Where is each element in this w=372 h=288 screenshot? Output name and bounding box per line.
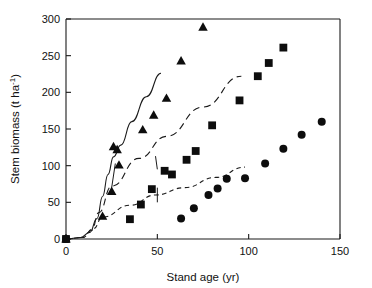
y-tick-label: 0 <box>54 233 60 245</box>
data-point-circle <box>190 204 198 212</box>
data-point-circle <box>204 191 212 199</box>
y-axis-title-group: Stem biomass (t ha-1) <box>8 74 21 184</box>
fit-notch-triangles <box>112 163 116 187</box>
x-axis-title: Stand age (yr) <box>167 271 240 283</box>
data-point-circle <box>318 118 326 126</box>
axis-ticks <box>66 19 340 239</box>
x-tick-label: 50 <box>151 245 163 257</box>
data-point-square <box>265 59 273 67</box>
data-point-square <box>192 147 200 155</box>
data-point-circle <box>241 174 249 182</box>
y-axis-title: Stem biomass (t ha-1) <box>8 74 21 184</box>
data-point-square <box>236 97 244 105</box>
axes <box>66 19 340 239</box>
data-point-triangle <box>198 22 208 30</box>
data-point-circle <box>62 235 70 243</box>
y-tick-label: 200 <box>42 86 60 98</box>
data-point-square <box>126 215 134 223</box>
x-tick-label: 100 <box>239 245 257 257</box>
x-tick-label: 150 <box>331 245 349 257</box>
y-tick-label: 300 <box>42 13 60 25</box>
data-point-square <box>208 121 216 129</box>
data-point-square <box>168 171 176 179</box>
data-point-triangle <box>162 93 172 101</box>
fit-notch-squares <box>156 156 158 169</box>
data-point-triangle <box>176 56 186 64</box>
x-tick-label: 0 <box>63 245 69 257</box>
stem-biomass-scatter-chart: 050100150200250300050100150 Stand age (y… <box>0 0 372 288</box>
data-point-circle <box>223 175 231 183</box>
y-tick-label: 250 <box>42 50 60 62</box>
data-point-circle <box>214 184 222 192</box>
y-axis-title-suffix: ) <box>9 74 21 78</box>
fit-lines <box>66 73 245 239</box>
y-tick-label: 150 <box>42 123 60 135</box>
data-point-circle <box>261 159 269 167</box>
fit-line-triangles <box>66 73 161 239</box>
data-point-square <box>183 156 191 164</box>
data-point-square <box>279 44 287 52</box>
figure-container: 050100150200250300050100150 Stand age (y… <box>0 0 372 288</box>
data-markers <box>61 22 325 243</box>
data-point-circle <box>279 145 287 153</box>
data-point-triangle <box>107 187 117 195</box>
data-point-circle <box>177 214 185 222</box>
data-point-triangle <box>149 110 159 118</box>
y-tick-label: 100 <box>42 160 60 172</box>
y-axis-title-main: Stem biomass (t ha <box>9 84 21 184</box>
fit-line-squares <box>66 76 241 239</box>
data-point-square <box>254 72 262 80</box>
data-point-square <box>137 201 145 209</box>
y-tick-label: 50 <box>48 196 60 208</box>
data-point-triangle <box>138 125 148 133</box>
data-point-square <box>148 185 156 193</box>
data-point-circle <box>298 131 306 139</box>
data-point-square <box>161 167 169 175</box>
